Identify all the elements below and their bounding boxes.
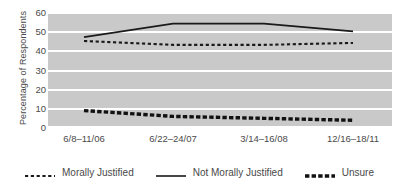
dotted-line-icon <box>25 167 55 177</box>
y-tick-label: 30 <box>24 66 46 76</box>
y-tick-label: 0 <box>24 123 46 133</box>
dotted-line-glyph <box>25 171 55 181</box>
thick-dashed-line-icon <box>305 167 335 177</box>
solid-line-icon <box>156 167 186 177</box>
solid-line-glyph <box>156 171 186 181</box>
legend-item-unsure: Unsure <box>305 167 374 178</box>
data-lines <box>48 12 392 128</box>
legend-item-morally-justified: Morally Justified <box>25 167 134 178</box>
series-line-morally-justified <box>84 41 353 45</box>
line-chart-figure: Percentage of Respondents 60 50 40 30 20… <box>0 0 399 186</box>
series-line-unsure <box>84 111 353 121</box>
x-tick-label: 12/16–18/11 <box>298 133 399 144</box>
plot-area <box>48 12 392 128</box>
y-tick-label: 40 <box>24 46 46 56</box>
y-tick-label: 50 <box>24 27 46 37</box>
y-tick-label: 20 <box>24 85 46 95</box>
chart-legend: Morally Justified Not Morally Justified … <box>0 162 399 182</box>
y-tick-label: 10 <box>24 104 46 114</box>
y-tick-label: 60 <box>24 8 46 18</box>
series-line-not-morally-justified <box>84 24 353 38</box>
legend-label: Not Morally Justified <box>193 167 283 178</box>
thick-dashed-line-glyph <box>305 171 335 181</box>
legend-item-not-morally-justified: Not Morally Justified <box>156 167 283 178</box>
x-axis-tick-labels: 6/8–11/06 6/22–24/07 3/14–16/08 12/16–18… <box>48 133 392 151</box>
y-axis-tick-labels: 60 50 40 30 20 10 0 <box>22 0 46 186</box>
legend-label: Morally Justified <box>62 167 134 178</box>
legend-label: Unsure <box>342 167 374 178</box>
